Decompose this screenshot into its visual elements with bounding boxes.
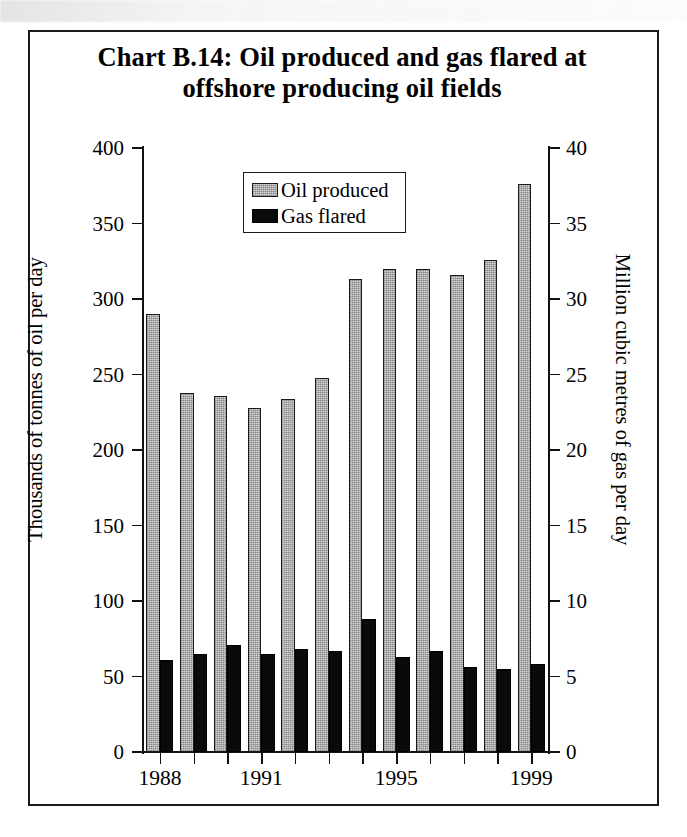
x-tick (362, 753, 364, 764)
y-axis-left-tick-labels: 050100150200250300350400 (76, 0, 124, 837)
y-tick-left (132, 298, 143, 300)
bar-oil-produced (383, 269, 397, 752)
bar-oil-produced (281, 399, 295, 752)
bars-layer (143, 148, 548, 752)
y-tick-left (132, 525, 143, 527)
x-tick (430, 753, 432, 764)
bar-oil-produced (146, 314, 160, 752)
bar-oil-produced (349, 279, 363, 752)
legend-label-gas: Gas flared (281, 206, 366, 227)
y-tick-left (132, 751, 143, 753)
y-tick-label-left: 250 (76, 365, 124, 386)
y-tick-label-left: 50 (76, 667, 124, 688)
y-tick-right (549, 525, 560, 527)
chart-title-line-1: Chart B.14: Oil produced and gas flared … (97, 42, 586, 72)
y-tick-label-left: 350 (76, 214, 124, 235)
legend-label-oil: Oil produced (281, 180, 389, 201)
bar-group (312, 148, 346, 752)
y-tick-label-right: 40 (566, 138, 614, 159)
y-tick-label-right: 35 (566, 214, 614, 235)
plot-area (143, 148, 548, 752)
y-tick-left (132, 223, 143, 225)
y-tick-left (132, 449, 143, 451)
y-axis-left-title: Thousands of tonnes of oil per day (24, 100, 47, 700)
bar-gas-flared (227, 645, 241, 752)
y-tick-left (132, 600, 143, 602)
x-tick-label: 1991 (216, 768, 306, 790)
y-tick-label-right: 5 (566, 667, 614, 688)
x-tick (396, 753, 398, 764)
bar-group (346, 148, 380, 752)
bar-oil-produced (416, 269, 430, 752)
bar-group (447, 148, 481, 752)
y-tick-right (549, 751, 560, 753)
legend-swatch-oil-icon (252, 183, 278, 197)
y-tick-label-right: 15 (566, 516, 614, 537)
x-tick (497, 753, 499, 764)
bar-oil-produced (248, 408, 262, 752)
x-tick (329, 753, 331, 764)
bar-group (514, 148, 548, 752)
y-tick-label-right: 0 (566, 742, 614, 763)
legend-item-oil-produced: Oil produced (252, 177, 405, 203)
bar-oil-produced (315, 378, 329, 752)
y-tick-left (132, 374, 143, 376)
x-tick-label: 1995 (351, 768, 441, 790)
bar-group (211, 148, 245, 752)
bar-gas-flared (497, 669, 511, 752)
y-tick-label-right: 25 (566, 365, 614, 386)
x-tick (194, 753, 196, 764)
y-tick-right (549, 676, 560, 678)
bar-group (143, 148, 177, 752)
bar-group (244, 148, 278, 752)
legend-swatch-gas-icon (252, 209, 278, 223)
y-tick-label-left: 100 (76, 591, 124, 612)
y-tick-right (549, 147, 560, 149)
y-tick-label-right: 30 (566, 289, 614, 310)
bar-oil-produced (518, 184, 532, 752)
bar-gas-flared (194, 654, 208, 752)
bar-oil-produced (214, 396, 228, 752)
y-tick-label-right: 20 (566, 440, 614, 461)
bar-gas-flared (430, 651, 444, 752)
chart-title: Chart B.14: Oil produced and gas flared … (42, 42, 642, 103)
bar-group (413, 148, 447, 752)
bar-gas-flared (329, 651, 343, 752)
y-tick-left (132, 676, 143, 678)
y-tick-label-left: 200 (76, 440, 124, 461)
bar-gas-flared (295, 649, 309, 752)
x-tick (295, 753, 297, 764)
y-tick-label-left: 0 (76, 742, 124, 763)
y-tick-right (549, 600, 560, 602)
x-tick (160, 753, 162, 764)
y-tick-left (132, 147, 143, 149)
y-axis-right-title: Million cubic metres of gas per day (611, 100, 634, 700)
x-tick (261, 753, 263, 764)
x-tick (227, 753, 229, 764)
bar-gas-flared (464, 667, 478, 752)
x-tick (464, 753, 466, 764)
bar-oil-produced (450, 275, 464, 752)
chart-title-line-2: offshore producing oil fields (42, 73, 642, 104)
legend-item-gas-flared: Gas flared (252, 203, 405, 229)
bar-gas-flared (160, 660, 174, 752)
bar-oil-produced (180, 393, 194, 752)
bar-group (481, 148, 515, 752)
y-tick-right (549, 223, 560, 225)
bar-group (177, 148, 211, 752)
y-axis-right-tick-labels: 0510152025303540 (566, 0, 614, 837)
bar-gas-flared (531, 664, 545, 752)
y-tick-label-left: 300 (76, 289, 124, 310)
y-tick-label-left: 400 (76, 138, 124, 159)
x-tick-label: 1988 (115, 768, 205, 790)
y-tick-right (549, 374, 560, 376)
bar-gas-flared (362, 619, 376, 752)
figure-root: Chart B.14: Oil produced and gas flared … (0, 0, 687, 837)
y-tick-label-left: 150 (76, 516, 124, 537)
bar-gas-flared (261, 654, 275, 752)
bar-gas-flared (396, 657, 410, 752)
x-tick (531, 753, 533, 764)
bar-oil-produced (484, 260, 498, 752)
bar-group (278, 148, 312, 752)
x-tick-label: 1999 (486, 768, 576, 790)
